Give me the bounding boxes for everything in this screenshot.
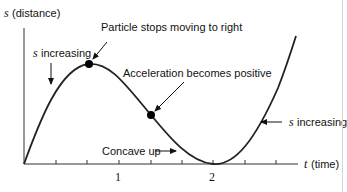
- y-axis-var: s: [4, 6, 9, 20]
- acceleration-label: Acceleration becomes positive: [123, 67, 272, 79]
- right-increasing-var: s: [289, 115, 294, 129]
- distance-time-diagram: s (distance) t (time) 1 2 Particle stops…: [0, 0, 347, 192]
- left-increasing-label: increasing: [41, 47, 91, 59]
- acceleration-arrow: [155, 82, 184, 111]
- left-increasing-var: s: [33, 46, 38, 60]
- tick-label-2: 2: [209, 170, 215, 184]
- particle-stops-arrow: [93, 42, 107, 59]
- x-axis-var: t: [304, 157, 308, 171]
- concave-up-label: Concave up: [102, 145, 161, 157]
- max-point: [85, 60, 93, 68]
- tick-label-1: 1: [115, 170, 121, 184]
- y-axis-label: (distance): [12, 7, 60, 19]
- x-ticks: [56, 160, 276, 164]
- right-increasing-label: increasing: [297, 116, 347, 128]
- particle-stops-label: Particle stops moving to right: [101, 21, 242, 33]
- inflection-point: [147, 111, 155, 119]
- right-border: [342, 0, 343, 192]
- x-axis-label: (time): [311, 158, 339, 170]
